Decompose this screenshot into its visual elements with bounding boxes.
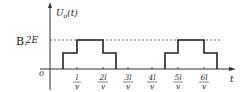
svg-text:v: v: [75, 82, 80, 91]
svg-text:v: v: [150, 82, 155, 91]
origin-label: 0: [39, 69, 44, 78]
svg-text:v: v: [202, 82, 207, 91]
tick-label-3: 3l v: [123, 73, 133, 91]
tick-label-5: 5l v: [173, 73, 183, 91]
y-axis-arrow-icon: [48, 2, 52, 8]
tick-label-2: 2l v: [98, 73, 108, 91]
tick-label-6: 6l v: [199, 73, 209, 91]
x-axis-arrow-icon: [229, 67, 236, 71]
svg-text:v: v: [176, 82, 181, 91]
svg-text:l: l: [76, 73, 79, 82]
svg-text:v: v: [101, 82, 106, 91]
waveform-pulse-1: [63, 40, 116, 69]
level-label-2E: 2E: [25, 35, 39, 45]
svg-text:5l: 5l: [174, 73, 182, 82]
svg-text:4l: 4l: [147, 73, 156, 82]
svg-text:6l: 6l: [200, 73, 208, 82]
waveform-pulse-2: [165, 40, 217, 69]
tick-label-4: 4l v: [147, 73, 157, 91]
svg-text:3l: 3l: [124, 73, 132, 82]
svg-text:2l: 2l: [98, 73, 107, 82]
y-axis-label: Uo(t): [56, 8, 78, 19]
x-axis-label: t: [230, 74, 234, 84]
waveform-chart: B. 2E 0 Uo(t) t l v 2l v 3l v 4l v 5l v …: [0, 0, 240, 92]
tick-label-1: l v: [73, 73, 81, 91]
svg-text:v: v: [126, 82, 131, 91]
